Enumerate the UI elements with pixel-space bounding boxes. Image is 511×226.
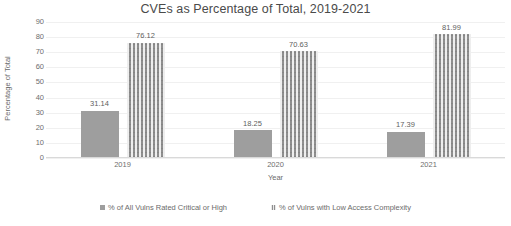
x-axis-tick-label: 2021 [352,160,505,172]
y-axis-tick-label: 0 [40,154,44,162]
y-axis-tick-label: 80 [36,33,44,41]
bar-value-label: 76.12 [136,32,155,40]
bar-value-label: 18.25 [243,120,262,128]
x-axis-title: Year [46,173,505,182]
bar-groups: 31.1476.1218.2570.6317.3981.99 [46,22,505,158]
legend-label: % of All Vulns Rated Critical or High [108,203,227,212]
bar-value-label: 81.99 [442,24,461,32]
bar-item[interactable]: 17.39 [387,22,425,158]
y-axis-title: Percentage of Total [0,18,14,158]
bar-series-1[interactable] [81,111,119,158]
y-axis-tick-labels: 0102030405060708090 [18,22,44,158]
y-axis-tick-label: 60 [36,64,44,72]
chart-title: CVEs as Percentage of Total, 2019-2021 [0,2,511,16]
legend-item[interactable]: % of All Vulns Rated Critical or High [100,203,227,212]
y-axis-tick-label: 70 [36,48,44,56]
chart-legend: % of All Vulns Rated Critical or High% o… [0,203,511,212]
bar-series-1[interactable] [387,132,425,158]
gridline [46,158,505,159]
bar-group: 31.1476.12 [46,22,199,158]
bar-series-2[interactable] [433,34,471,158]
bar-series-2[interactable] [280,51,318,158]
bar-group-bars: 31.1476.12 [46,22,199,158]
bar-item[interactable]: 81.99 [433,22,471,158]
bar-group: 18.2570.63 [199,22,352,158]
y-axis-title-text: Percentage of Total [3,56,12,121]
y-axis-tick-label: 40 [36,94,44,102]
x-axis-tick-label: 2020 [199,160,352,172]
legend-label: % of Vulns with Low Access Complexity [279,203,411,212]
plot-area: 31.1476.1218.2570.6317.3981.99 [46,22,505,158]
bar-value-label: 17.39 [396,121,415,129]
bar-item[interactable]: 18.25 [234,22,272,158]
bar-group-bars: 17.3981.99 [352,22,505,158]
y-axis-tick-label: 20 [36,124,44,132]
bar-value-label: 31.14 [90,100,109,108]
y-axis-tick-label: 90 [36,18,44,26]
bar-group-bars: 18.2570.63 [199,22,352,158]
bar-value-label: 70.63 [289,41,308,49]
legend-swatch-icon [100,205,105,210]
bar-item[interactable]: 70.63 [280,22,318,158]
legend-item[interactable]: % of Vulns with Low Access Complexity [271,203,411,212]
x-axis-line [46,157,505,158]
legend-swatch-icon [271,205,276,210]
y-axis-tick-label: 10 [36,139,44,147]
bar-series-1[interactable] [234,130,272,158]
x-axis-tick-labels: 201920202021 [46,160,505,172]
x-axis-tick-label: 2019 [46,160,199,172]
bar-item[interactable]: 31.14 [81,22,119,158]
chart-container: CVEs as Percentage of Total, 2019-2021 P… [0,0,511,226]
y-axis-tick-label: 50 [36,79,44,87]
bar-group: 17.3981.99 [352,22,505,158]
bar-item[interactable]: 76.12 [127,22,165,158]
y-axis-tick-label: 30 [36,109,44,117]
bar-series-2[interactable] [127,43,165,158]
